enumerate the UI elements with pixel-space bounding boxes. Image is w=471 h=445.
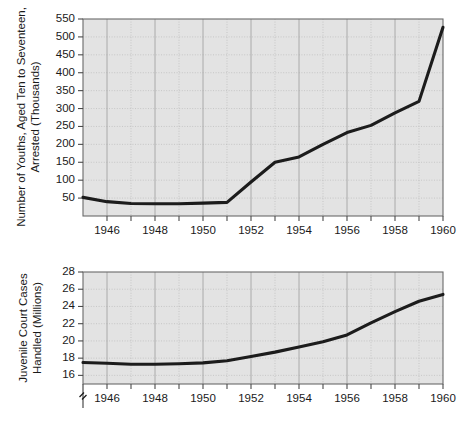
y-axis-tick-label: 200 bbox=[56, 137, 75, 149]
y-axis-title-line-2: Handled (Millions) bbox=[31, 282, 43, 374]
x-axis-tick-label: 1946 bbox=[94, 224, 120, 236]
y-axis-tick-label: 26 bbox=[62, 282, 75, 294]
chart-youth-arrests-svg: 50100150200250300350400450500550 1946194… bbox=[0, 0, 471, 258]
y-axis-tick-label: 16 bbox=[62, 368, 75, 380]
x-axis-tick-label: 1946 bbox=[94, 392, 120, 404]
y-axis-ticks-top bbox=[78, 19, 83, 198]
y-axis-title-line-1: Number of Youths, Aged Ten to Seventeen, bbox=[15, 7, 27, 227]
y-axis-ticks-bottom bbox=[78, 272, 83, 375]
y-axis-tick-label: 28 bbox=[62, 265, 75, 277]
y-axis-tick-label: 22 bbox=[62, 317, 75, 329]
x-axis-tick-label: 1952 bbox=[238, 224, 264, 236]
y-axis-title-bottom: Juvenile Court Cases Handled (Millions) bbox=[17, 273, 43, 383]
y-axis-tick-labels-bottom: 16182022242628 bbox=[62, 265, 75, 380]
x-axis-tick-label: 1954 bbox=[286, 392, 312, 404]
x-axis-tick-label: 1948 bbox=[142, 224, 168, 236]
x-axis-tick-label: 1956 bbox=[334, 392, 360, 404]
y-axis-tick-label: 400 bbox=[56, 66, 75, 78]
x-axis-tick-label: 1950 bbox=[190, 224, 216, 236]
y-axis-tick-label: 350 bbox=[56, 84, 75, 96]
y-axis-tick-label: 100 bbox=[56, 173, 75, 185]
x-axis-tick-labels-top: 19461948195019521954195619581960 bbox=[94, 224, 456, 236]
y-axis-tick-label: 450 bbox=[56, 48, 75, 60]
x-axis-tick-label: 1958 bbox=[382, 392, 408, 404]
x-axis-tick-label: 1960 bbox=[430, 224, 456, 236]
y-axis-tick-label: 250 bbox=[56, 119, 75, 131]
x-axis-tick-label: 1954 bbox=[286, 224, 312, 236]
x-axis-tick-label: 1960 bbox=[430, 392, 456, 404]
y-axis-tick-label: 24 bbox=[62, 299, 75, 311]
y-axis-tick-label: 550 bbox=[56, 12, 75, 24]
y-axis-title-line-1: Juvenile Court Cases bbox=[17, 273, 29, 383]
y-axis-title-line-2: Arrested (Thousands) bbox=[29, 61, 41, 172]
x-axis-ticks-bottom bbox=[107, 384, 443, 389]
plot-background-bottom bbox=[83, 272, 443, 384]
x-axis-tick-label: 1952 bbox=[238, 392, 264, 404]
chart-juvenile-court-cases-svg: 16182022242628 1946194819501952195419561… bbox=[0, 258, 471, 445]
x-axis-tick-label: 1958 bbox=[382, 224, 408, 236]
y-axis-tick-label: 300 bbox=[56, 102, 75, 114]
y-axis-tick-label: 20 bbox=[62, 334, 75, 346]
x-axis-tick-label: 1948 bbox=[142, 392, 168, 404]
x-axis-tick-label: 1956 bbox=[334, 224, 360, 236]
y-axis-tick-label: 150 bbox=[56, 155, 75, 167]
x-axis-tick-labels-bottom: 19461948195019521954195619581960 bbox=[94, 392, 456, 404]
y-axis-tick-label: 500 bbox=[56, 30, 75, 42]
chart-juvenile-court-cases: 16182022242628 1946194819501952195419561… bbox=[0, 258, 471, 445]
two-panel-line-chart-figure: 50100150200250300350400450500550 1946194… bbox=[0, 0, 471, 445]
y-axis-title-top: Number of Youths, Aged Ten to Seventeen,… bbox=[15, 7, 41, 227]
y-axis-tick-label: 18 bbox=[62, 351, 75, 363]
chart-youth-arrests: 50100150200250300350400450500550 1946194… bbox=[0, 0, 471, 258]
y-axis-tick-label: 50 bbox=[62, 191, 75, 203]
x-axis-tick-label: 1950 bbox=[190, 392, 216, 404]
plot-area-bottom bbox=[83, 272, 443, 384]
x-axis-ticks-top bbox=[107, 216, 443, 221]
y-axis-tick-labels-top: 50100150200250300350400450500550 bbox=[56, 12, 75, 203]
